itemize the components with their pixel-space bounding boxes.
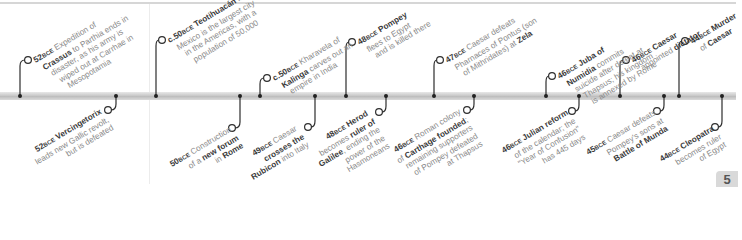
event-circle-icon <box>159 37 166 44</box>
event-circle-icon <box>264 75 271 82</box>
timeline-marker-dot <box>472 94 476 98</box>
event-circle-icon <box>25 57 32 64</box>
event-circle-icon <box>305 124 312 131</box>
event-circle-icon <box>105 107 112 114</box>
timeline-marker-dot <box>720 94 724 98</box>
timeline-marker-dot <box>618 94 622 98</box>
timeline-marker-dot <box>432 94 436 98</box>
timeline-marker-dot <box>677 94 681 98</box>
timeline-marker-dot <box>662 94 666 98</box>
timeline-marker-dot <box>114 94 118 98</box>
timeline-marker-dot <box>384 94 388 98</box>
timeline-marker-dot <box>154 94 158 98</box>
event-circle-icon <box>376 109 383 116</box>
event-circle-icon <box>437 57 444 64</box>
timeline-marker-dot <box>258 94 262 98</box>
timeline-marker-dot <box>238 94 242 98</box>
timeline-marker-dot <box>18 94 22 98</box>
event-circle-icon <box>549 73 556 80</box>
event-circle-icon <box>464 107 471 114</box>
timeline-marker-dot <box>344 94 348 98</box>
timeline-marker-dot <box>544 94 548 98</box>
page-number: 5 <box>716 171 738 187</box>
timeline-marker-dot <box>313 94 317 98</box>
